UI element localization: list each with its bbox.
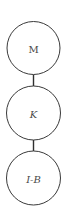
node-k: K [7,86,61,140]
node-ib: I-B [7,151,61,205]
node-ib-label: I-B [25,174,41,185]
chain-diagram: M K I-B [0,0,67,214]
node-k-label: K [29,109,38,120]
node-m: M [7,22,60,75]
node-m-label: M [28,44,38,55]
